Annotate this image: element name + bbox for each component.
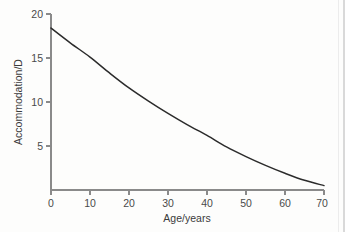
y-axis-ticks <box>46 14 51 146</box>
x-tick-label-0: 0 <box>48 197 54 209</box>
y-tick-label-20: 20 <box>31 8 43 20</box>
x-tick-label-50: 50 <box>240 197 252 209</box>
x-tick-label-20: 20 <box>123 197 135 209</box>
x-tick-label-70: 70 <box>316 197 328 209</box>
accommodation-vs-age-figure: 20 15 10 5 0 10 20 30 40 50 60 70 <box>0 0 345 232</box>
y-axis-tick-labels: 20 15 10 5 <box>31 8 43 152</box>
x-tick-label-40: 40 <box>201 197 213 209</box>
x-tick-label-10: 10 <box>84 197 96 209</box>
x-axis-title: Age/years <box>163 212 210 224</box>
y-tick-label-5: 5 <box>37 140 43 152</box>
chart-canvas: 20 15 10 5 0 10 20 30 40 50 60 70 <box>0 0 345 232</box>
x-axis-ticks <box>51 190 324 195</box>
x-tick-label-30: 30 <box>162 197 174 209</box>
x-axis-tick-labels: 0 10 20 30 40 50 60 70 <box>48 197 328 209</box>
accommodation-curve <box>51 28 324 186</box>
y-tick-label-15: 15 <box>31 52 43 64</box>
y-tick-label-10: 10 <box>31 96 43 108</box>
y-axis-title: Accommodation/D <box>12 59 24 145</box>
x-tick-label-60: 60 <box>279 197 291 209</box>
